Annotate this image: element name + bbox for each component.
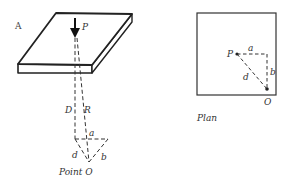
plan-title: Plan [196, 113, 217, 123]
label-a: a [89, 128, 94, 138]
plan-distance-d-line [237, 54, 267, 89]
label-b: b [101, 152, 107, 162]
plan-label-O: O [264, 97, 272, 107]
point-o-label: Point O [58, 167, 93, 177]
label-R: R [83, 105, 91, 115]
plan-label-P: P [226, 49, 234, 59]
plan-label-d: d [243, 72, 249, 82]
label-d: d [72, 150, 78, 160]
panel-label: A [14, 21, 22, 31]
diagram-canvas: A P D R a d b Point O P a b d O Plan [0, 0, 287, 186]
load-label: P [81, 22, 89, 32]
label-D: D [64, 105, 72, 115]
plan-label-b: b [270, 67, 276, 77]
plan-point-o-icon [265, 87, 269, 91]
plan-load-point-icon [235, 52, 238, 55]
plan-offsets [237, 54, 267, 89]
plan-label-a: a [248, 43, 253, 53]
